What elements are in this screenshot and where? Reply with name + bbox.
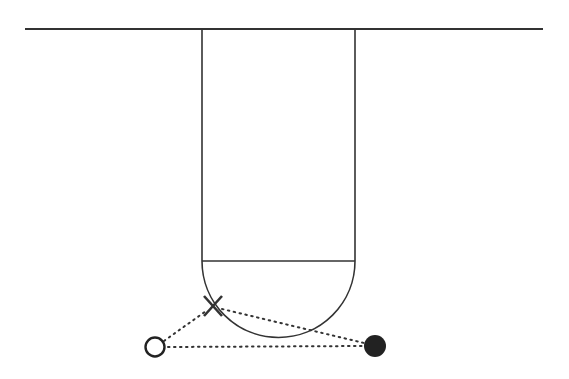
dotted-line-player-to-ball [168, 346, 364, 347]
free-throw-semicircle [202, 261, 355, 338]
defender-x-icon [204, 296, 222, 316]
ball-icon [364, 335, 386, 357]
dotted-line-player-to-defender [164, 311, 206, 341]
dotted-line-defender-to-ball [222, 309, 364, 343]
court-diagram [0, 0, 569, 379]
offensive-player-icon [146, 338, 165, 357]
